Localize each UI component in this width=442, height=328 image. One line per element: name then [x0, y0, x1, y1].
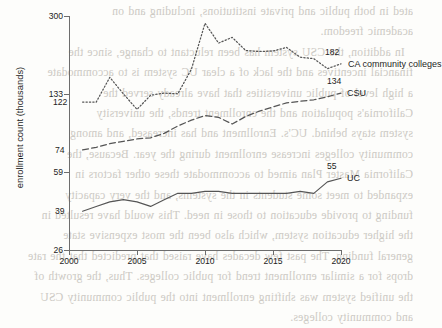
series-label-uc: UC [347, 173, 360, 183]
series-label-csu: CSU [347, 88, 366, 98]
line-csu [83, 93, 341, 150]
label-csu-end: 134 [327, 76, 341, 86]
label-ccc-start: 122 [53, 97, 67, 107]
label-csu-start: 74 [55, 145, 65, 155]
series-label-ccc: CA community colleges [348, 59, 442, 69]
label-uc-end: 55 [327, 161, 337, 171]
line-uc [83, 178, 341, 211]
label-ccc-end: 182 [325, 47, 339, 57]
line-ca-community-colleges [83, 23, 341, 109]
label-uc-start: 39 [55, 206, 65, 216]
